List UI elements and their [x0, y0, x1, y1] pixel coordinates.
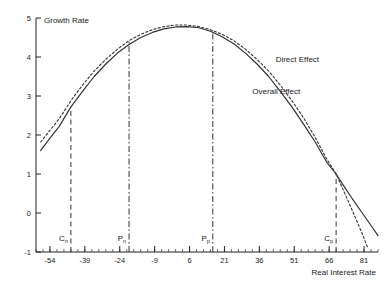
- y-axis-tick-label: 5: [27, 14, 31, 23]
- y-axis-tick-label: 3: [27, 92, 31, 101]
- series-label-overall-effect: Overall Effect: [252, 87, 301, 96]
- x-axis-tick-label: -9: [151, 256, 158, 265]
- series-label-direct-effect: Direct Effect: [276, 55, 320, 64]
- x-axis-tick-label: 51: [290, 256, 298, 265]
- y-axis-tick-label: -1: [24, 248, 31, 257]
- axes-layer: [36, 18, 378, 252]
- y-axis-tick-label: 0: [27, 209, 31, 218]
- chart-canvas: -54-39-24-962136516681-1012345Overall Ef…: [0, 0, 385, 290]
- x-axis-tick-label: 21: [220, 256, 228, 265]
- x-axis-tick-label: -24: [114, 256, 125, 265]
- series-layer: [41, 25, 378, 247]
- x-axis-tick-label: 36: [255, 256, 263, 265]
- x-axis-tick-label: 66: [325, 256, 333, 265]
- marker-label-c_p: Cp: [324, 234, 333, 244]
- x-axis-tick-label: 6: [187, 256, 191, 265]
- x-axis-tick-label: 81: [360, 256, 368, 265]
- labels-layer: -54-39-24-962136516681-1012345Overall Ef…: [24, 14, 376, 277]
- x-axis-title: Real Interest Rate: [312, 268, 377, 277]
- y-axis-title: Growth Rate: [44, 16, 89, 25]
- x-axis-tick-label: -39: [79, 256, 90, 265]
- growth-rate-chart: -54-39-24-962136516681-1012345Overall Ef…: [0, 0, 385, 290]
- marker-label-c_n: Cn: [59, 234, 68, 244]
- series-line-overall-effect: [41, 27, 378, 236]
- markers-layer: [71, 30, 336, 252]
- marker-label-p_p: Pp: [201, 234, 209, 244]
- y-axis-tick-label: 4: [27, 53, 31, 62]
- y-axis-tick-label: 2: [27, 131, 31, 140]
- y-axis-tick-label: 1: [27, 170, 31, 179]
- x-axis-tick-label: -54: [45, 256, 56, 265]
- marker-label-p_n: Pn: [118, 234, 126, 244]
